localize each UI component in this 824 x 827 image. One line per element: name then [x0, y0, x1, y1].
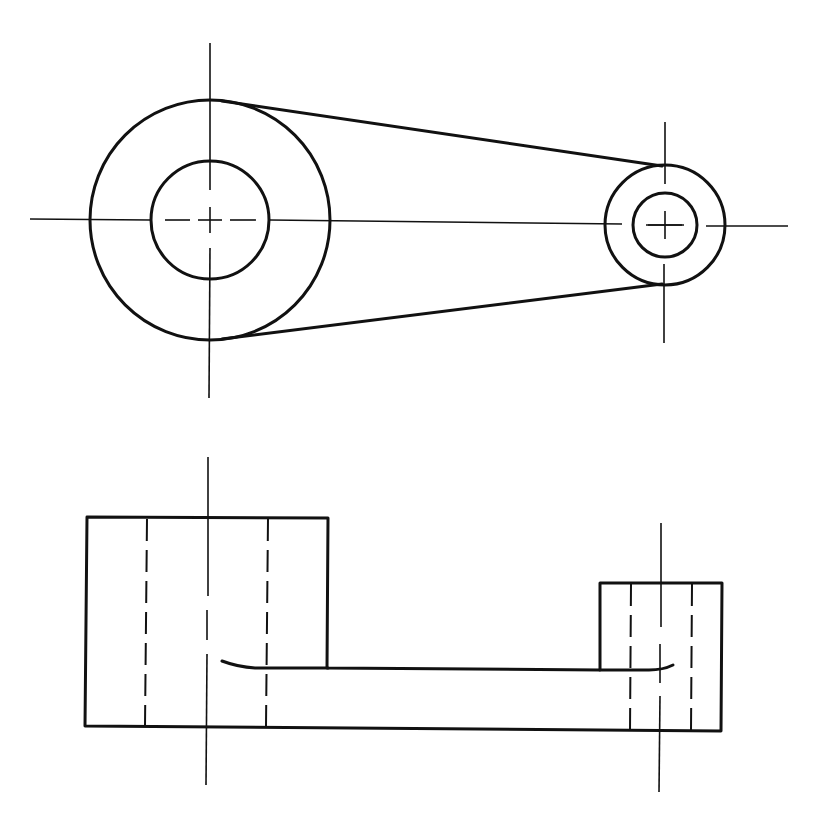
- hidden-line-large-right: [266, 519, 268, 726]
- hidden-line-small-left: [630, 584, 631, 731]
- vertical-centerline-large-seg: [209, 248, 210, 398]
- front-centerline-large-seg: [206, 654, 207, 785]
- engineering-drawing: [0, 0, 824, 827]
- rib-fillet-left: [222, 661, 328, 668]
- front-view: [85, 457, 722, 792]
- front-view-outline: [85, 517, 722, 731]
- rib-fillet-right: [600, 665, 673, 670]
- front-centerline-small-seg: [659, 696, 660, 792]
- hidden-line-large-left: [145, 519, 147, 726]
- top-view: [30, 43, 788, 398]
- upper-tangent-line: [222, 101, 662, 166]
- horizontal-centerline-seg: [270, 220, 622, 224]
- hidden-line-small-right: [691, 584, 692, 731]
- top-view-centerlines: [30, 43, 788, 398]
